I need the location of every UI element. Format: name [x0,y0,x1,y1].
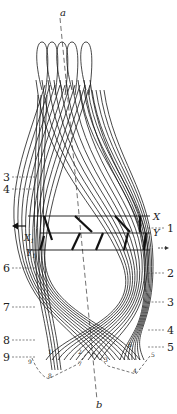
bottom-point-label: 6 [128,341,132,348]
right-label: 4 [167,324,174,337]
strand [100,90,152,360]
row-label-x: X [152,211,161,222]
bottom-point-label: 9 [28,358,32,365]
strand-group [14,42,153,379]
bottom-point-label: 3 [104,356,108,363]
stitch-mark [44,216,52,240]
loop-top [57,42,68,95]
arrow-right-icon [158,246,169,250]
stitch-mark [75,216,92,232]
left-label: 4 [3,183,10,196]
left-label: 6 [3,262,10,275]
bottom-point-label: 8 [48,372,52,379]
bottom-point-label: 7 [78,360,82,367]
right-label: 1 [167,222,174,235]
row-label-y: Y [153,227,161,238]
left-labels: 346789 [3,171,36,364]
bottom-point-label: 4 [133,367,137,374]
loop-top [67,42,78,95]
loop-top [37,42,48,95]
braid-diagram: a b X Y X1 Y1 346789 12345 981723645 [0,0,177,414]
left-label: 8 [3,334,10,347]
right-label: 2 [167,267,174,280]
axis-label-a: a [60,7,66,18]
stitch-mark [96,233,103,250]
left-label: 7 [3,301,10,314]
loop-top [81,42,92,95]
loop-top [47,42,58,95]
axis-label-b: b [96,399,102,410]
strand [84,90,146,360]
right-label: 3 [167,296,174,309]
bottom-point-label: 1 [48,348,52,355]
stitch-mark [72,233,80,250]
right-label: 5 [167,341,174,354]
left-label: 9 [3,351,10,364]
bottom-point-label: 2 [78,348,82,355]
strand [29,85,115,360]
bottom-point-label: 5 [151,351,155,358]
strand [42,80,128,360]
